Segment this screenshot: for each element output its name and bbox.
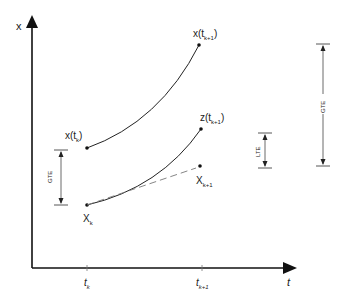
label-X-k: Xk: [83, 213, 94, 226]
arrow-up-icon: [263, 134, 268, 140]
lte-label: LTE: [255, 146, 261, 157]
y-axis-arrow-icon: [26, 15, 38, 28]
label-z-tk1: z(tk+1): [200, 112, 224, 125]
x-axis-label: t: [287, 276, 291, 288]
label-X-k1: Xk+1: [196, 175, 213, 188]
point-x-tk1: [197, 43, 201, 47]
tick-label-tk: tk: [84, 277, 91, 290]
arrow-up-icon: [321, 45, 326, 51]
point-x-tk: [85, 146, 89, 150]
exact-solution-curve: [87, 45, 199, 148]
gte-left-label: GTE: [47, 171, 53, 183]
point-X-k1: [198, 164, 202, 168]
arrow-down-icon: [263, 161, 268, 167]
y-axis-label: x: [16, 20, 22, 32]
local-solution-curve: [87, 129, 201, 205]
x-axis-arrow-icon: [283, 262, 297, 274]
diagram-canvas: x t tk tk+1 x(tk) x(tk+1) z(tk+1) Xk Xk+…: [0, 0, 346, 300]
arrow-down-icon: [321, 159, 326, 165]
point-z-tk1: [199, 127, 203, 131]
arrow-down-icon: [59, 198, 64, 204]
gte-left-marker: GTE: [47, 150, 68, 205]
gte-right-label: GTE: [320, 101, 326, 113]
axes: [26, 15, 297, 274]
numeric-step-dashed: [87, 168, 196, 205]
lte-marker: LTE: [255, 133, 272, 168]
label-x-tk1: x(tk+1): [193, 28, 217, 41]
arrow-up-icon: [59, 151, 64, 157]
gte-right-marker: GTE: [316, 44, 330, 166]
label-x-tk: x(tk): [65, 130, 82, 143]
tick-label-tk1: tk+1: [196, 277, 209, 290]
